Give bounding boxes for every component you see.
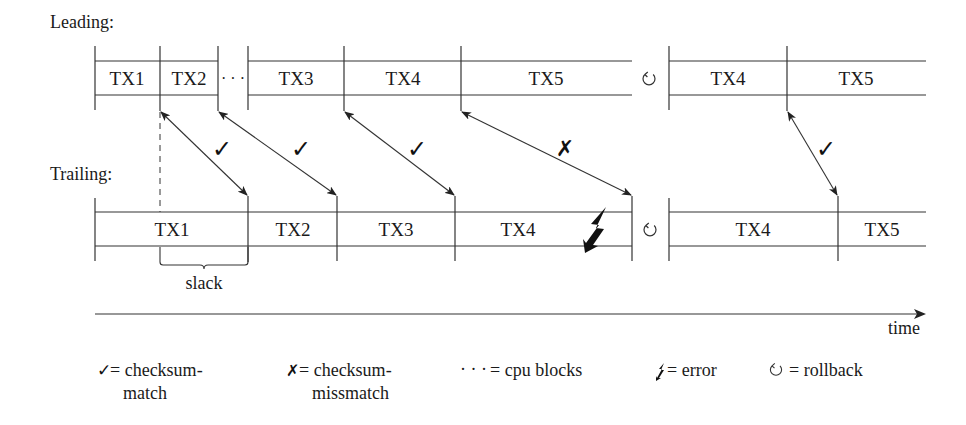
rollback-icon xyxy=(644,223,656,236)
slack-brace xyxy=(160,247,248,269)
check-icon: ✓ xyxy=(816,135,836,163)
svg-text:= checksum-: = checksum- xyxy=(110,360,203,380)
trailing-track: TX1 TX2 TX3 TX4 TX4 TX5 xyxy=(95,196,926,262)
legend-item-rollback: = rollback xyxy=(770,360,862,380)
svg-text:= cpu blocks: = cpu blocks xyxy=(490,360,582,380)
arrow-tx3 xyxy=(345,112,454,195)
trailing-tx1: TX1 xyxy=(155,219,190,240)
svg-text:missmatch: missmatch xyxy=(312,383,389,403)
check-icon: ✓ xyxy=(291,135,311,163)
leading-tx4: TX4 xyxy=(386,68,421,89)
legend: ✓ = checksum- match ✗ = checksum- missma… xyxy=(97,359,863,403)
trailing-tx3: TX3 xyxy=(379,219,414,240)
trailing-tx5: TX5 xyxy=(865,219,900,240)
trailing-tx2: TX2 xyxy=(276,219,311,240)
leading-tx4-retry: TX4 xyxy=(711,68,746,89)
leading-tx5: TX5 xyxy=(529,68,564,89)
check-icon: ✓ xyxy=(212,135,232,163)
arrow-tx1 xyxy=(161,112,247,195)
legend-item-error: = error xyxy=(656,360,717,381)
timing-diagram: Leading: Trailing: TX1 TX2 · · · TX3 TX4… xyxy=(0,0,966,425)
leading-tx3: TX3 xyxy=(279,68,314,89)
legend-item-check: ✓ = checksum- match xyxy=(97,360,203,403)
time-label: time xyxy=(888,318,920,338)
dots-icon: · · · xyxy=(460,359,487,379)
error-bolt-icon xyxy=(656,363,664,381)
legend-item-cpu-blocks: · · · = cpu blocks xyxy=(460,359,582,380)
arrow-tx2 xyxy=(219,112,336,195)
leading-track: TX1 TX2 · · · TX3 TX4 TX5 TX4 TX5 xyxy=(95,46,926,111)
svg-text:= rollback: = rollback xyxy=(789,360,863,380)
leading-label: Leading: xyxy=(50,12,114,32)
trailing-tx4-retry: TX4 xyxy=(736,219,771,240)
leading-tx1: TX1 xyxy=(110,68,145,89)
leading-tx5-retry: TX5 xyxy=(839,68,874,89)
trailing-tx4: TX4 xyxy=(501,219,536,240)
leading-tx2: TX2 xyxy=(172,68,207,89)
rollback-icon xyxy=(770,363,781,375)
arrow-tx4 xyxy=(462,112,631,195)
svg-text:= checksum-: = checksum- xyxy=(299,360,392,380)
comparison-arrows: ✓ ✓ ✓ ✗ ✓ xyxy=(161,112,837,195)
cpu-blocks-dots: · · · xyxy=(221,70,245,87)
rollback-icon xyxy=(643,72,655,85)
cross-icon: ✗ xyxy=(286,361,299,380)
slack-label: slack xyxy=(186,273,223,293)
legend-item-cross: ✗ = checksum- missmatch xyxy=(286,360,392,403)
check-icon: ✓ xyxy=(407,135,427,163)
cross-icon: ✗ xyxy=(556,136,574,161)
svg-text:match: match xyxy=(123,383,167,403)
svg-text:= error: = error xyxy=(667,360,717,380)
trailing-label: Trailing: xyxy=(50,164,112,184)
